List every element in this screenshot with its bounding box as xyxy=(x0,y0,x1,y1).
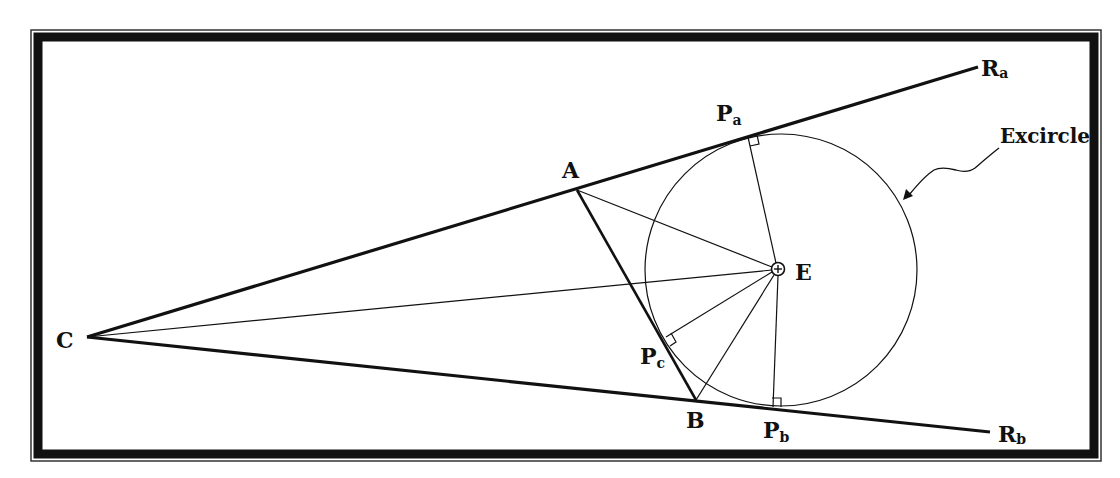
excircle-diagram: C A B E Pa Pb Pc Ra Rb Excircle xyxy=(0,0,1120,478)
label-Pa: Pa xyxy=(716,100,742,128)
frame xyxy=(31,30,1101,461)
side-AB xyxy=(577,190,696,400)
segment-CE xyxy=(87,270,772,337)
frame-thick-border xyxy=(38,37,1094,454)
label-A: A xyxy=(561,157,580,183)
label-Pb: Pb xyxy=(763,417,790,445)
segment-EPa xyxy=(748,137,776,263)
excircle-pointer-arrow xyxy=(903,148,999,200)
segments-from-E xyxy=(87,137,778,407)
label-Pc: Pc xyxy=(640,343,665,371)
label-C: C xyxy=(56,327,74,353)
right-angle-mark-Pc xyxy=(670,333,676,346)
center-E-marker xyxy=(772,263,785,276)
label-Ra: Ra xyxy=(981,55,1008,81)
segment-AE xyxy=(577,190,772,267)
label-E: E xyxy=(795,259,812,285)
segment-EPb xyxy=(773,276,778,407)
label-B: B xyxy=(686,407,705,433)
segment-BE xyxy=(696,275,774,400)
label-Rb: Rb xyxy=(998,421,1026,447)
frame-outer-line xyxy=(31,30,1101,461)
ray-CRa xyxy=(87,67,978,337)
label-excircle: Excircle xyxy=(1000,124,1090,148)
